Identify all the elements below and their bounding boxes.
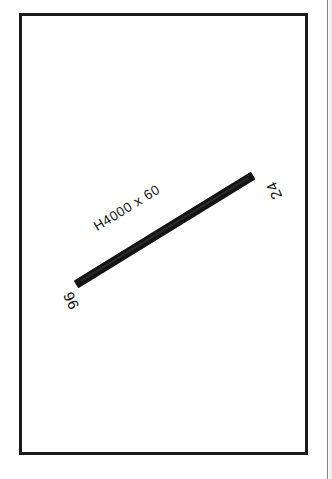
page-edge-shadow: [328, 0, 332, 479]
node-label-end: 24: [263, 179, 284, 201]
structural-member-group: H4000 x 60 96 24: [22, 16, 311, 458]
drawing-border-frame: H4000 x 60 96 24: [19, 13, 308, 455]
member-size-label: H4000 x 60: [91, 183, 162, 234]
page-edge-line: [327, 0, 328, 479]
drawing-sheet: H4000 x 60 96 24: [0, 0, 332, 479]
node-label-start: 96: [60, 289, 81, 311]
